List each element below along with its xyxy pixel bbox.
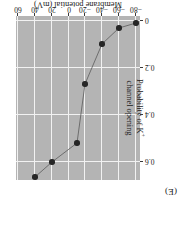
- plot-area: [16, 16, 140, 180]
- y-axis-label-superscript: +: [140, 134, 146, 137]
- data-point: [82, 81, 87, 86]
- data-point: [32, 174, 37, 179]
- y-axis-label-line1: Probability of K: [135, 79, 144, 133]
- data-point: [99, 41, 104, 46]
- data-point: [116, 25, 121, 30]
- data-point: [74, 140, 79, 145]
- activation-curve: [16, 16, 140, 180]
- panel-label: (E): [165, 187, 177, 197]
- y-tick-label: 0: [145, 16, 174, 25]
- x-axis-label: Membrane potential (mV): [16, 0, 140, 9]
- y-axis-label: Probability of K+ channel opening: [124, 48, 148, 168]
- figure-panel: (E) −80 −60 −40 −20 0 20: [0, 0, 182, 245]
- y-tick-label: 0.2: [145, 63, 174, 72]
- y-axis-label-line2: channel opening: [124, 48, 134, 168]
- y-tick-label: 0.6: [145, 157, 174, 166]
- data-point: [133, 20, 138, 25]
- data-point: [49, 159, 54, 164]
- y-axis-tick: [140, 20, 143, 21]
- y-tick-label: 0.4: [145, 110, 174, 119]
